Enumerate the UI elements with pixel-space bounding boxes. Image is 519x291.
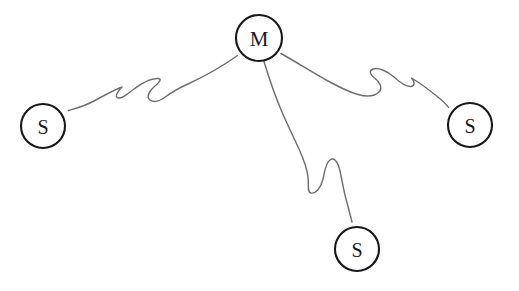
node-slave-left[interactable]: S [21,104,65,148]
edge-master-slave-right [281,54,449,108]
node-slave-left-label: S [37,116,48,138]
topology-diagram: M S S S [0,0,519,291]
node-master[interactable]: M [236,15,282,61]
edge-master-slave-bottom [264,62,352,223]
node-slave-bottom-label: S [351,239,362,261]
node-slave-bottom[interactable]: S [335,227,379,271]
diagram-canvas: M S S S [0,0,519,291]
node-master-label: M [250,27,269,51]
edge-master-slave-left [69,56,238,111]
edge-group [69,54,449,223]
node-slave-right-label: S [464,115,475,137]
node-slave-right[interactable]: S [448,103,492,147]
